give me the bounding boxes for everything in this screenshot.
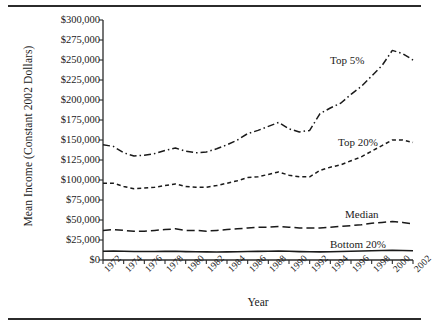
series-line-3	[103, 250, 413, 252]
figure-bottom-rule	[8, 318, 421, 320]
plot-area: Mean Income (Constant 2002 Dollars) $0$2…	[0, 10, 429, 316]
x-axis-title: Year	[103, 296, 413, 308]
series-label-top-20: Top 20%	[338, 136, 378, 148]
y-tick-label: $25,000	[22, 235, 100, 245]
x-axis-tick-labels: 1972197419761978198019821984198619881990…	[0, 10, 429, 70]
y-tick-label: $0	[22, 255, 100, 265]
series-label-median: Median	[345, 208, 379, 220]
y-tick-label: $150,000	[22, 135, 100, 145]
series-label-bottom-20: Bottom 20%	[330, 238, 386, 250]
y-tick-label: $75,000	[22, 195, 100, 205]
y-tick-label: $50,000	[22, 215, 100, 225]
figure-top-rule	[8, 5, 421, 7]
y-tick-label: $225,000	[22, 75, 100, 85]
series-label-top-5: Top 5%	[330, 54, 364, 66]
y-tick-label: $175,000	[22, 115, 100, 125]
y-tick-label: $100,000	[22, 175, 100, 185]
y-tick-label: $200,000	[22, 95, 100, 105]
series-line-2	[103, 222, 413, 232]
y-tick-label: $125,000	[22, 155, 100, 165]
